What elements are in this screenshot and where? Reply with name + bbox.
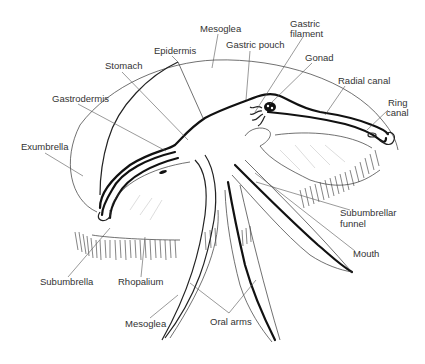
- label-mesoglea-top: Mesoglea: [200, 23, 242, 34]
- label-gastric-filament-line2: filament: [290, 28, 324, 39]
- right-subumbrella-shape: [245, 128, 380, 185]
- label-gastric-pouch: Gastric pouch: [226, 39, 285, 50]
- stomach-upper-contour: [100, 94, 388, 208]
- label-exumbrella: Exumbrella: [21, 141, 69, 152]
- label-oral-arms: Oral arms: [210, 316, 252, 327]
- epidermis-line: [178, 62, 203, 118]
- label-ring-canal-line2: canal: [386, 107, 409, 118]
- gonad-shape: [264, 102, 276, 112]
- label-mouth: Mouth: [353, 248, 379, 259]
- label-mesoglea-bottom: Mesoglea: [125, 318, 167, 329]
- oral-arm-right-upper: [245, 160, 350, 270]
- right-subumbrella-upper: [275, 133, 372, 148]
- rhopalium-mark: [159, 169, 168, 175]
- oral-arm-right: [235, 165, 352, 272]
- left-subumbrella-edge: [92, 235, 180, 240]
- label-subumbrellar-funnel-line2: funnel: [340, 218, 366, 229]
- label-subumbrella: Subumbrella: [40, 276, 94, 287]
- leader-lines: [45, 34, 388, 318]
- label-epidermis: Epidermis: [154, 45, 196, 56]
- label-radial-canal: Radial canal: [338, 75, 390, 86]
- gastric-filaments: [250, 107, 265, 126]
- label-stomach: Stomach: [105, 60, 143, 71]
- left-canal-tip: [98, 210, 110, 221]
- label-rhopalium: Rhopalium: [118, 276, 163, 287]
- manubrium-left-inner: [165, 155, 216, 338]
- label-gastrodermis: Gastrodermis: [52, 93, 109, 104]
- left-tentacle-fringe: [75, 232, 176, 260]
- right-tentacle-fringe: [300, 150, 379, 208]
- manubrium-left: [162, 160, 206, 340]
- jellyfish-anatomy-diagram: Mesoglea Gastric filament Gastric pouch …: [0, 0, 425, 364]
- label-gonad: Gonad: [305, 52, 334, 63]
- label-subumbrellar-funnel: Subumbrellar: [340, 207, 397, 218]
- radial-canal-lower-contour: [268, 112, 386, 142]
